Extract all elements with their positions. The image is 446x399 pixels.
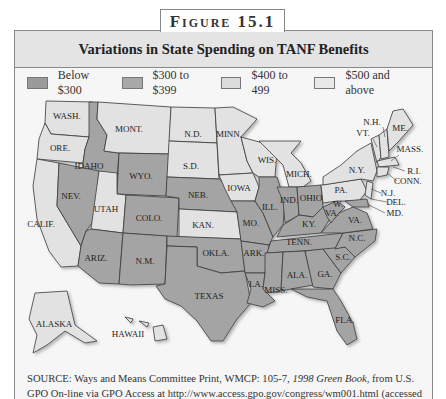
legend-label: $300 to $399 bbox=[153, 68, 205, 98]
legend-item-400-499: $400 to 499 bbox=[221, 68, 299, 98]
state-sd bbox=[167, 141, 219, 179]
svg-text:MASS.: MASS. bbox=[397, 144, 424, 154]
legend-item-below-300: Below $300 bbox=[27, 68, 106, 98]
legend: Below $300 $300 to $399 $400 to 499 $500… bbox=[27, 74, 424, 92]
legend-label: Below $300 bbox=[58, 68, 106, 98]
svg-text:CALIF.: CALIF. bbox=[27, 219, 55, 229]
svg-text:HAWAII: HAWAII bbox=[112, 329, 144, 339]
svg-text:MD.: MD. bbox=[387, 208, 404, 218]
svg-text:ORE.: ORE. bbox=[50, 143, 70, 153]
svg-text:IDAHO: IDAHO bbox=[75, 161, 104, 171]
svg-text:N.Y.: N.Y. bbox=[349, 165, 365, 175]
svg-text:KAN.: KAN. bbox=[192, 220, 214, 230]
svg-text:ALA.: ALA. bbox=[287, 270, 308, 280]
source-note: SOURCE: Ways and Means Committee Print, … bbox=[27, 371, 426, 399]
svg-text:VA.: VA. bbox=[348, 215, 362, 225]
svg-text:WASH.: WASH. bbox=[53, 111, 81, 121]
svg-text:KY.: KY. bbox=[302, 219, 316, 229]
legend-swatch bbox=[314, 77, 335, 89]
svg-text:NEB.: NEB. bbox=[188, 190, 208, 200]
figure-frame: Variations in State Spending on TANF Ben… bbox=[14, 30, 433, 399]
svg-text:IND.: IND. bbox=[280, 195, 298, 205]
state-ny bbox=[323, 143, 377, 185]
svg-text:N.H.: N.H. bbox=[363, 117, 381, 127]
svg-text:S.D.: S.D. bbox=[183, 161, 199, 171]
svg-text:LA.: LA. bbox=[249, 279, 263, 289]
svg-text:S.C.: S.C. bbox=[335, 252, 351, 262]
figure-title: Variations in State Spending on TANF Ben… bbox=[15, 31, 432, 68]
svg-text:NEV.: NEV. bbox=[61, 191, 81, 201]
svg-text:OHIO: OHIO bbox=[300, 193, 323, 203]
svg-text:ARIZ.: ARIZ. bbox=[84, 253, 107, 263]
svg-text:OKLA.: OKLA. bbox=[202, 248, 229, 258]
svg-text:MISS.: MISS. bbox=[264, 285, 287, 295]
legend-item-500-above: $500 and above bbox=[314, 68, 408, 98]
legend-swatch bbox=[27, 77, 48, 89]
figure-label: Figure 15.1 bbox=[160, 9, 285, 32]
svg-text:WIS.: WIS. bbox=[258, 155, 277, 165]
svg-text:IOWA: IOWA bbox=[227, 183, 251, 193]
svg-text:ARK.: ARK. bbox=[243, 248, 264, 258]
svg-text:ALASKA: ALASKA bbox=[36, 319, 73, 329]
legend-label: $400 to 499 bbox=[251, 68, 298, 98]
legend-swatch bbox=[221, 77, 242, 89]
svg-text:WYO.: WYO. bbox=[129, 171, 153, 181]
svg-text:R.I.: R.I. bbox=[407, 166, 421, 176]
state-nj bbox=[365, 181, 373, 199]
svg-text:N.M.: N.M. bbox=[135, 256, 154, 266]
us-map: WASH. ORE. CALIF. IDAHO NEV. MONT. WYO. … bbox=[15, 95, 432, 370]
svg-text:MICH.: MICH. bbox=[286, 169, 312, 179]
svg-text:UTAH: UTAH bbox=[94, 204, 119, 214]
state-conn bbox=[377, 167, 389, 177]
svg-text:ILL.: ILL. bbox=[262, 202, 278, 212]
legend-swatch bbox=[122, 77, 143, 89]
source-text: Ways and Means Committee Print, WMCP: 10… bbox=[72, 373, 293, 384]
svg-text:FLA.: FLA. bbox=[335, 315, 354, 325]
svg-text:PA.: PA. bbox=[335, 185, 348, 195]
svg-text:ME.: ME. bbox=[392, 123, 408, 133]
source-publication: 1998 Green Book bbox=[292, 373, 366, 384]
svg-text:DEL.: DEL. bbox=[386, 197, 406, 207]
legend-item-300-399: $300 to $399 bbox=[122, 68, 205, 98]
svg-text:TENN.: TENN. bbox=[286, 237, 312, 247]
svg-text:VT.: VT. bbox=[356, 128, 370, 138]
svg-text:MO.: MO. bbox=[243, 218, 260, 228]
source-label: SOURCE: bbox=[27, 373, 72, 384]
svg-text:COLO.: COLO. bbox=[136, 213, 163, 223]
svg-text:N.D.: N.D. bbox=[184, 129, 202, 139]
svg-text:TEXAS: TEXAS bbox=[195, 291, 224, 301]
svg-text:N.C.: N.C. bbox=[348, 233, 365, 243]
svg-text:MONT.: MONT. bbox=[115, 124, 143, 134]
legend-label: $500 and above bbox=[345, 68, 408, 98]
svg-text:CONN.: CONN. bbox=[394, 176, 422, 186]
svg-text:GA.: GA. bbox=[317, 269, 332, 279]
svg-text:VA.: VA. bbox=[325, 208, 339, 218]
svg-text:MINN.: MINN. bbox=[216, 129, 242, 139]
